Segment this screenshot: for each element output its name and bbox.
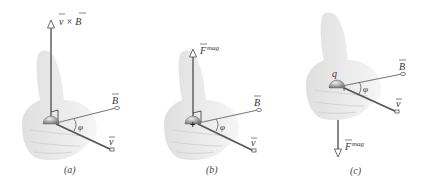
b-label: B (112, 95, 118, 106)
svg-text:F: F (199, 45, 207, 56)
vxb-label: v × B (59, 13, 86, 27)
b-label: B (254, 97, 260, 108)
svg-text:mag: mag (207, 44, 220, 52)
caption-b: (b) (206, 164, 218, 176)
panel-c: q F mag B v φ (c) (306, 13, 406, 178)
right-hand-icon (306, 13, 381, 121)
caption-c: (c) (350, 165, 362, 177)
right-hand-icon (164, 51, 239, 161)
b-label: B (399, 61, 405, 72)
phi-label: φ (78, 122, 83, 132)
positive-charge-sign: + (190, 120, 195, 130)
right-hand-icon (22, 51, 97, 161)
right-hand-rule-figure: v × B B v φ (a) + F mag B (0, 0, 428, 188)
svg-text:v × B: v × B (59, 16, 81, 27)
arrowhead-down-icon (335, 149, 342, 157)
f-mag-label: F mag (199, 44, 220, 56)
svg-text:mag: mag (352, 140, 365, 148)
panel-b: + F mag B v φ (b) (164, 44, 262, 176)
v-label: v (396, 98, 401, 109)
charge-q-label: q (332, 68, 337, 79)
v-label: v (109, 136, 114, 147)
svg-text:F: F (344, 141, 352, 152)
arrowhead-up-icon (48, 20, 55, 28)
phi-label: φ (220, 122, 225, 132)
caption-a: (a) (64, 164, 76, 176)
panel-a: v × B B v φ (a) (22, 13, 120, 176)
phi-label: φ (363, 84, 368, 94)
v-label: v (251, 137, 256, 148)
f-mag-label: F mag (344, 140, 365, 152)
